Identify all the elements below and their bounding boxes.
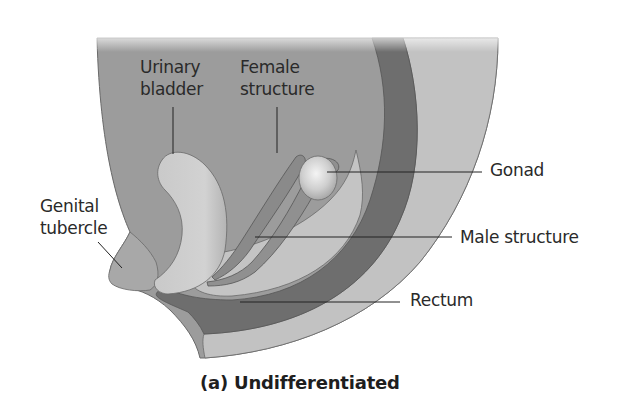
label-genital-tubercle-line2: tubercle xyxy=(40,217,107,239)
label-genital-tubercle: Genital tubercle xyxy=(40,195,107,239)
diagram-canvas: Urinary bladder Female structure Gonad G… xyxy=(0,0,620,401)
label-genital-tubercle-line1: Genital xyxy=(40,195,107,217)
label-urinary-bladder-line1: Urinary xyxy=(140,56,203,78)
figure-caption: (a) Undifferentiated xyxy=(200,372,400,394)
label-rectum: Rectum xyxy=(410,289,473,311)
label-male-structure: Male structure xyxy=(460,226,579,248)
label-female-structure-line1: Female xyxy=(240,56,314,78)
label-female-structure-line2: structure xyxy=(240,78,314,100)
gonad-shape xyxy=(299,156,337,200)
label-urinary-bladder: Urinary bladder xyxy=(140,56,203,100)
label-female-structure: Female structure xyxy=(240,56,314,100)
top-fade xyxy=(90,30,510,52)
label-urinary-bladder-line2: bladder xyxy=(140,78,203,100)
label-gonad: Gonad xyxy=(490,159,544,181)
